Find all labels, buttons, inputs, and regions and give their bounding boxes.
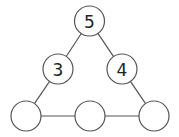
node-circle bbox=[139, 101, 169, 131]
edge-top-mid-right bbox=[98, 33, 114, 56]
node-label: 4 bbox=[117, 60, 128, 80]
edge-mid-left-bottom-left bbox=[34, 81, 49, 103]
node-label: 5 bbox=[84, 12, 95, 32]
node-mid-right: 4 bbox=[107, 54, 137, 84]
nodes: 534 bbox=[11, 6, 169, 131]
edge-mid-right-bottom-right bbox=[130, 81, 145, 103]
node-mid-left: 3 bbox=[43, 54, 73, 84]
node-top: 5 bbox=[75, 6, 105, 36]
number-triangle-diagram: 534 bbox=[0, 0, 179, 137]
node-circle bbox=[11, 101, 41, 131]
node-label: 3 bbox=[53, 60, 64, 80]
node-bottom-left bbox=[11, 101, 41, 131]
node-bottom-middle bbox=[75, 101, 105, 131]
node-bottom-right bbox=[139, 101, 169, 131]
node-circle bbox=[75, 101, 105, 131]
edge-top-mid-left bbox=[66, 34, 81, 57]
